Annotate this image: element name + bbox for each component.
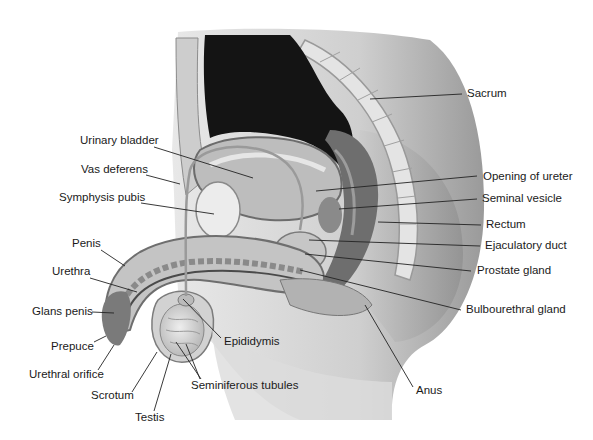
label-symphysis-pubis: Symphysis pubis (59, 191, 145, 204)
leader-line-testis (154, 354, 171, 411)
label-scrotum: Scrotum (91, 389, 134, 402)
label-seminal-vesicle: Seminal vesicle (482, 192, 562, 205)
label-urethral-orifice: Urethral orifice (29, 368, 104, 381)
leader-line-prepuce (94, 336, 106, 342)
leader-line-penis (101, 250, 125, 266)
label-rectum: Rectum (486, 218, 526, 231)
label-testis: Testis (135, 411, 164, 424)
label-ejaculatory-duct: Ejaculatory duct (485, 239, 567, 252)
label-bulbourethral-gland: Bulbourethral gland (466, 303, 566, 316)
label-opening-of-ureter: Opening of ureter (483, 170, 573, 183)
label-prepuce: Prepuce (51, 340, 94, 353)
label-prostate-gland: Prostate gland (477, 264, 551, 277)
anatomy-diagram: Urinary bladder Vas deferens Symphysis p… (0, 0, 593, 440)
label-glans-penis: Glans penis (32, 305, 93, 318)
label-seminiferous-tubules: Seminiferous tubules (191, 379, 298, 392)
label-urethra: Urethra (52, 265, 90, 278)
label-urinary-bladder: Urinary bladder (80, 134, 159, 147)
label-vas-deferens: Vas deferens (81, 163, 148, 176)
label-anus: Anus (416, 384, 442, 397)
label-epididymis: Epididymis (224, 335, 280, 348)
symphysis-pubis (196, 182, 240, 238)
leader-line-scrotum (132, 352, 157, 392)
leader-line-urethral-orifice (98, 345, 114, 370)
seminal-vesicle (318, 197, 342, 233)
label-sacrum: Sacrum (467, 87, 507, 100)
label-penis: Penis (72, 237, 101, 250)
